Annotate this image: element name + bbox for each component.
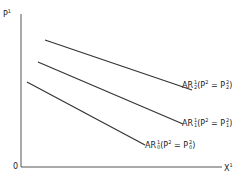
curve-label-1: AR11(P2 = P21) xyxy=(182,118,232,128)
x-axis-label: X1 xyxy=(224,163,233,173)
y-axis-label: P1 xyxy=(3,9,11,19)
curve-label-0: AR10(P2 = P20) xyxy=(145,140,195,150)
curve-label-2: AR12(P2 = P22) xyxy=(182,80,232,90)
ar-curve-1 xyxy=(38,62,183,124)
origin-label: 0 xyxy=(13,163,18,171)
ar-curve-0 xyxy=(27,82,145,145)
ar-curve-2 xyxy=(45,40,192,90)
